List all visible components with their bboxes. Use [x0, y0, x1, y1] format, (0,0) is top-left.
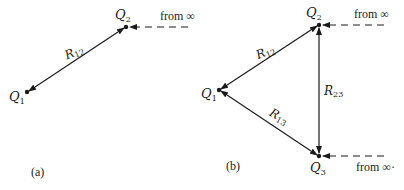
charge-q1-label: Q1 [201, 86, 217, 103]
distance-r12-label: R12 [62, 42, 86, 63]
charge-q3-label: Q3 [310, 160, 326, 177]
distance-r13-label: R13 [266, 105, 291, 128]
charge-q2-dot [317, 23, 321, 27]
from-infinity-q2-label: from ∞ [354, 7, 389, 21]
charge-q2-dot [124, 25, 128, 29]
panel-a: Q1 Q2 R12 from ∞ (a) [9, 7, 195, 179]
caption-a: (a) [31, 165, 44, 179]
charge-q2-label: Q2 [115, 7, 131, 24]
panel-b: Q1 Q2 Q3 R12 R13 R23 from ∞ from ∞· (b) [201, 5, 395, 177]
caption-b: (b) [226, 159, 240, 173]
charge-q2-label: Q2 [306, 5, 322, 22]
from-infinity-q3-label: from ∞· [356, 160, 395, 174]
distance-r13-line [221, 91, 317, 155]
charge-q3-dot [317, 154, 321, 158]
from-infinity-label: from ∞ [160, 9, 195, 23]
distance-r23-label: R23 [323, 84, 343, 99]
charge-q1-dot [217, 88, 221, 92]
charge-q1-label: Q1 [9, 89, 25, 106]
charge-assembly-diagram: Q1 Q2 R12 from ∞ (a) Q1 Q2 Q3 R12 R13 R2… [0, 0, 404, 190]
charge-q1-dot [25, 90, 29, 94]
